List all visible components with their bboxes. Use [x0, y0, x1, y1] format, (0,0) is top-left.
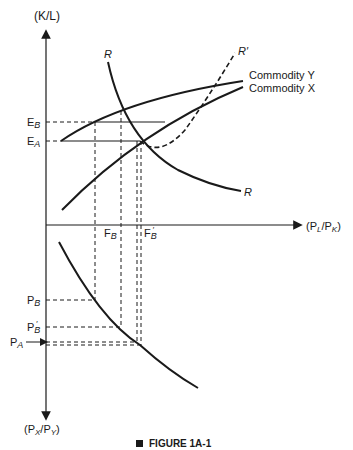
p-b-label: PB [27, 294, 40, 308]
price-ratio-curve [59, 242, 198, 388]
y-up-axis-label: (K/L) [34, 9, 60, 23]
caption-square-icon [136, 440, 143, 447]
r-curve-upper [108, 62, 241, 191]
x-axis-label: (PL/PK) [306, 220, 341, 234]
r-label-top: R [104, 48, 112, 60]
r-label-bottom: R [244, 186, 252, 198]
commodity-y-label: Commodity Y [249, 69, 315, 81]
commodity-y-curve [61, 81, 243, 141]
f-b-label: FB [104, 227, 117, 241]
r-prime-label: R′ [238, 45, 249, 57]
e-b-label: EB [27, 116, 40, 130]
figure-caption: FIGURE 1A-1 [149, 438, 212, 449]
e-a-label: EA [27, 135, 40, 149]
f-b-prime-label: FB′ [144, 225, 157, 241]
p-a-label: PA [10, 336, 23, 350]
commodity-x-label: Commodity X [249, 82, 316, 94]
p-b-prime-label: PB′ [27, 319, 40, 335]
commodity-x-curve [62, 87, 243, 210]
y-down-axis-label: (PX/PY) [24, 423, 60, 437]
factor-price-diagram: (K/L) (PL/PK) (PX/PY) R R R′ Commodity Y… [0, 0, 353, 450]
